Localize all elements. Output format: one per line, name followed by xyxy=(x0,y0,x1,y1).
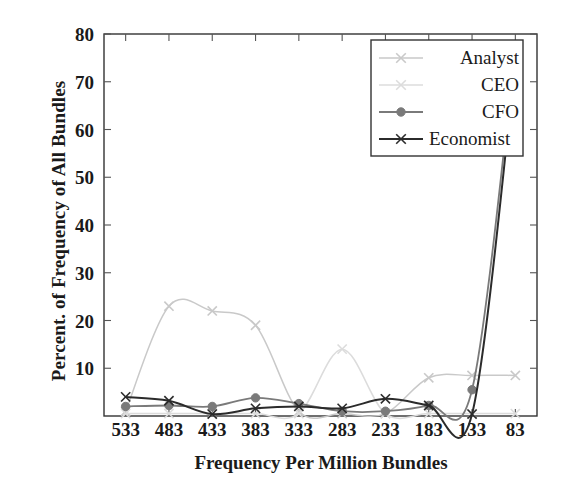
legend-label-analyst: Analyst xyxy=(429,48,519,67)
legend-label-economist: Economist xyxy=(429,129,519,148)
chart-figure: Percent. of Frequency of All Bundles Fre… xyxy=(0,0,578,496)
legend-label-cfo: CFO xyxy=(429,102,519,121)
series-analyst xyxy=(121,299,520,418)
legend-label-ceo: CEO xyxy=(429,75,519,94)
